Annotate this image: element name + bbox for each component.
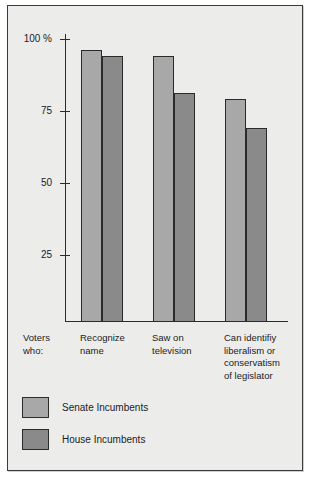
category-2-line-1: Can identifiy — [224, 332, 300, 345]
x-axis-prefix-line-2: who: — [23, 345, 71, 358]
y-tick-50 — [60, 183, 70, 184]
y-tick-75 — [60, 111, 70, 112]
y-tick-label-25: 25 — [0, 250, 52, 260]
chart-figure: 100 % 75 50 25 Voters who: Recognize nam… — [7, 5, 303, 471]
category-2-line-2: liberalism or — [224, 345, 300, 358]
category-2-line-3: conservatism — [224, 357, 300, 370]
category-0-line-2: name — [80, 345, 156, 358]
x-axis-prefix-label: Voters who: — [23, 332, 71, 357]
legend-label-senate: Senate Incumbents — [62, 402, 148, 413]
category-1-line-2: television — [152, 345, 228, 358]
category-label-saw-on-television: Saw on television — [152, 332, 228, 357]
bar-senate-can-identify — [225, 99, 246, 322]
y-axis-line — [65, 34, 66, 322]
category-2-line-4: of legislator — [224, 370, 300, 383]
y-tick-25 — [60, 255, 70, 256]
bar-house-can-identify — [246, 128, 267, 322]
bar-house-saw-on-television — [174, 93, 195, 322]
bar-senate-recognize-name — [81, 50, 102, 322]
category-label-recognize-name: Recognize name — [80, 332, 156, 357]
category-0-line-1: Recognize — [80, 332, 156, 345]
bar-house-recognize-name — [102, 56, 123, 322]
y-tick-label-100: 100 % — [0, 34, 52, 44]
y-tick-label-75: 75 — [0, 106, 52, 116]
x-axis-prefix-line-1: Voters — [23, 332, 71, 345]
legend-label-house: House Incumbents — [62, 434, 145, 445]
y-tick-label-50: 50 — [0, 178, 52, 188]
bar-senate-saw-on-television — [153, 56, 174, 322]
category-1-line-1: Saw on — [152, 332, 228, 345]
y-tick-100 — [60, 39, 70, 40]
plot-area: 100 % 75 50 25 Voters who: Recognize nam… — [8, 6, 304, 472]
legend-swatch-house-icon — [22, 429, 49, 450]
category-label-can-identify: Can identifiy liberalism or conservatism… — [224, 332, 300, 382]
legend-swatch-senate-icon — [22, 397, 49, 418]
